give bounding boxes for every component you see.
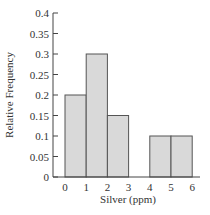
histogram-bar	[171, 136, 192, 177]
y-tick-label: 0.3	[35, 48, 49, 60]
y-axis: 00.050.10.150.20.250.30.350.4	[30, 7, 58, 183]
x-tick-label: 4	[147, 181, 153, 193]
x-tick-label: 3	[126, 181, 132, 193]
y-tick-label: 0.35	[30, 28, 50, 40]
y-axis-title: Relative Frequency	[3, 52, 15, 138]
x-axis-title: Silver (ppm)	[100, 193, 156, 206]
x-tick-label: 1	[83, 181, 89, 193]
histogram-bar	[150, 136, 171, 177]
y-tick-label: 0.1	[35, 130, 49, 142]
histogram-bar	[86, 54, 107, 177]
x-axis: 0123456	[53, 177, 200, 193]
x-tick-label: 5	[168, 181, 174, 193]
x-tick-label: 0	[62, 181, 68, 193]
x-tick-label: 6	[189, 181, 195, 193]
histogram-bar	[107, 116, 128, 178]
histogram-chart: 00.050.10.150.20.250.30.350.4 0123456 Si…	[0, 0, 210, 215]
y-tick-label: 0.25	[30, 69, 50, 81]
y-tick-label: 0	[44, 171, 50, 183]
y-tick-label: 0.15	[30, 110, 50, 122]
y-tick-label: 0.4	[35, 7, 49, 19]
x-tick-label: 2	[105, 181, 111, 193]
bars-group	[65, 54, 192, 177]
histogram-bar	[65, 95, 86, 177]
y-tick-label: 0.05	[30, 151, 50, 163]
y-tick-label: 0.2	[35, 89, 49, 101]
